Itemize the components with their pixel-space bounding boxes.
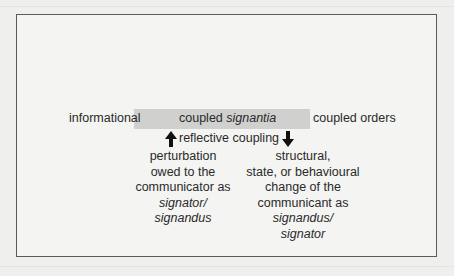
- arrow-down-icon: [282, 131, 294, 147]
- text-line: perturbation: [127, 149, 239, 165]
- italic-term: signator: [245, 227, 361, 243]
- page-bleed-line: [0, 266, 454, 267]
- informational-label: informational: [69, 111, 141, 126]
- reflective-coupling-label: reflective coupling: [179, 131, 279, 146]
- signantia-term: signantia: [226, 111, 276, 125]
- communicator-description: perturbation owed to the communicator as…: [127, 149, 239, 227]
- text-line: communicant as: [245, 196, 361, 212]
- italic-term: signandus: [127, 211, 239, 227]
- diagram-frame: informational coupled signantia coupled …: [16, 14, 437, 257]
- coupled-prefix: coupled: [179, 111, 226, 125]
- communicant-description: structural, state, or behavioural change…: [245, 149, 361, 242]
- coupled-orders-label: coupled orders: [313, 111, 396, 126]
- italic-term: signandus/: [245, 211, 361, 227]
- coupled-signantia-label: coupled signantia: [179, 111, 276, 126]
- text-line: state, or behavioural: [245, 165, 361, 181]
- text-line: structural,: [245, 149, 361, 165]
- text-line: change of the: [245, 180, 361, 196]
- text-line: communicator as: [127, 180, 239, 196]
- arrow-up-icon: [165, 131, 177, 147]
- page-bleed-line: [0, 6, 454, 7]
- text-line: owed to the: [127, 165, 239, 181]
- italic-term: signator/: [127, 196, 239, 212]
